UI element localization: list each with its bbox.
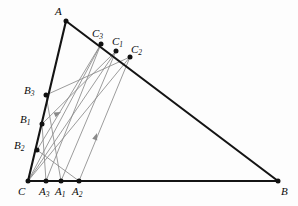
cevian-B3-to-C2 — [46, 57, 130, 95]
point-b2-label: B2 — [14, 140, 24, 151]
point-b3-label: B3 — [24, 85, 34, 96]
point-b3-point — [44, 93, 49, 98]
point-c2-label: C2 — [131, 44, 142, 55]
geometry-canvas — [0, 0, 298, 206]
point-c1-point — [114, 49, 119, 54]
point-a2-label: A2 — [72, 186, 82, 197]
vertex-a-point — [64, 19, 69, 24]
point-a3-point — [44, 179, 49, 184]
point-a3-label: A3 — [39, 186, 49, 197]
cevian-B1-to-A3 — [42, 124, 46, 181]
point-c1-label: C1 — [112, 36, 123, 47]
vertex-b-point — [276, 179, 281, 184]
point-b1-point — [40, 122, 45, 127]
cevian-A1-to-C1 — [61, 51, 116, 181]
direction-arrows-group — [54, 110, 100, 141]
cevian-A2-to-C2 — [79, 57, 130, 181]
point-b2-point — [35, 148, 40, 153]
point-a1-point — [59, 179, 64, 184]
point-b1-label: B1 — [20, 114, 30, 125]
point-c3-label: C3 — [92, 28, 103, 39]
point-c3-point — [99, 42, 104, 47]
vertex-b-label: B — [281, 186, 288, 197]
cevian-B2-to-A2 — [37, 150, 79, 181]
point-a1-label: A1 — [55, 186, 65, 197]
vertex-a-label: A — [55, 6, 62, 17]
edge-A-B — [66, 21, 278, 181]
geometry-figure: ABCC3C1C2B3B1B2A3A1A2 — [0, 0, 298, 206]
vertex-c-point — [26, 179, 31, 184]
point-c2-point — [128, 55, 133, 60]
point-a2-point — [77, 179, 82, 184]
point-markers-group — [26, 19, 281, 184]
vertex-c-label: C — [18, 186, 25, 197]
